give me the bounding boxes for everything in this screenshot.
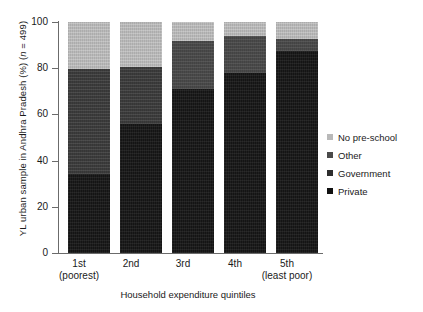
y-tick-label-100: 100 <box>18 17 48 27</box>
y-axis-title: YL urban sample in Andhra Pradesh (%) (n… <box>17 3 28 255</box>
segment-private[interactable] <box>172 89 214 253</box>
x-axis-line <box>57 253 323 254</box>
legend-item-private[interactable]: Private <box>327 182 423 200</box>
segment-government[interactable] <box>120 67 162 124</box>
segment-no-pre-school[interactable] <box>120 22 162 67</box>
legend-item-other[interactable]: Other <box>327 146 423 164</box>
y-tick-label-60: 60 <box>18 109 48 119</box>
segment-other[interactable] <box>172 41 214 90</box>
x-tick-label-1-main: 1st <box>72 258 85 269</box>
y-tick-label-40: 40 <box>18 156 48 166</box>
x-tick-label-4-main: 4th <box>228 258 242 269</box>
y-axis-title-italic-n: n <box>17 51 28 56</box>
chart-legend: No pre-school Other Government Private <box>327 128 423 200</box>
legend-label-government: Government <box>338 168 390 179</box>
segment-other[interactable] <box>276 39 318 51</box>
x-tick-label-5: 5th (least poor) <box>243 258 331 282</box>
y-tick-label-20: 20 <box>18 202 48 212</box>
segment-private[interactable] <box>120 124 162 253</box>
bar-quintile-5[interactable] <box>276 22 318 253</box>
segment-government[interactable] <box>68 69 110 174</box>
x-tick-label-5-sub: (least poor) <box>243 270 331 282</box>
segment-no-pre-school[interactable] <box>276 22 318 39</box>
segment-no-pre-school[interactable] <box>172 22 214 40</box>
segment-no-pre-school[interactable] <box>68 22 110 69</box>
legend-swatch-icon-government <box>327 170 333 176</box>
legend-swatch-icon-no-pre-school <box>327 134 333 140</box>
x-tick-label-3-main: 3rd <box>176 258 190 269</box>
bar-quintile-2[interactable] <box>120 22 162 253</box>
segment-private[interactable] <box>224 73 266 253</box>
segment-other[interactable] <box>224 36 266 73</box>
y-tick-label-80: 80 <box>18 63 48 73</box>
x-axis-title: Household expenditure quintiles <box>40 289 336 300</box>
x-tick-label-5-main: 5th <box>280 258 294 269</box>
legend-swatch-icon-private <box>327 188 333 194</box>
y-tick-mark-0 <box>52 253 58 254</box>
x-tick-label-2-main: 2nd <box>123 258 140 269</box>
legend-item-government[interactable]: Government <box>327 164 423 182</box>
legend-item-no-pre-school[interactable]: No pre-school <box>327 128 423 146</box>
segment-no-pre-school[interactable] <box>224 22 266 36</box>
y-tick-label-0: 0 <box>18 248 48 258</box>
x-tick-label-1-sub: (poorest) <box>35 270 123 282</box>
legend-label-other: Other <box>338 150 362 161</box>
legend-label-private: Private <box>338 186 368 197</box>
segment-private[interactable] <box>276 51 318 253</box>
legend-label-no-pre-school: No pre-school <box>338 132 397 143</box>
bar-quintile-1[interactable] <box>68 22 110 253</box>
chart-figure: YL urban sample in Andhra Pradesh (%) (n… <box>0 0 423 312</box>
plot-area <box>58 22 320 253</box>
segment-private[interactable] <box>68 174 110 253</box>
bar-quintile-4[interactable] <box>224 22 266 253</box>
legend-swatch-icon-other <box>327 152 333 158</box>
bar-quintile-3[interactable] <box>172 22 214 253</box>
